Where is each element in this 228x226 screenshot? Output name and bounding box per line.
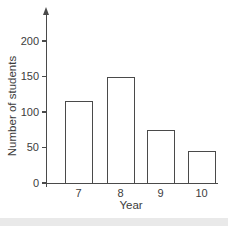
bar-chart: Number of students 050100150200 78910 Ye… xyxy=(0,0,228,226)
bar-year-10 xyxy=(188,151,216,183)
x-tick-label: 8 xyxy=(107,188,135,199)
bar-year-8 xyxy=(107,77,135,184)
y-axis-line xyxy=(46,14,47,183)
x-tick-label: 10 xyxy=(188,188,216,199)
y-tick xyxy=(42,76,46,77)
y-tick-label: 150 xyxy=(13,71,39,82)
x-tick-label: 9 xyxy=(147,188,175,199)
y-axis-arrow-icon xyxy=(43,7,49,15)
bar-year-9 xyxy=(147,130,175,183)
bar-year-7 xyxy=(65,101,93,183)
y-tick xyxy=(42,147,46,148)
y-tick-label: 100 xyxy=(13,107,39,118)
y-tick xyxy=(42,40,46,41)
x-axis-line xyxy=(46,183,218,184)
y-tick-label: 50 xyxy=(13,142,39,153)
bottom-strip xyxy=(0,218,228,226)
y-tick-label: 0 xyxy=(13,178,39,189)
y-tick xyxy=(42,182,46,183)
x-axis-title: Year xyxy=(46,199,216,211)
y-tick-label: 200 xyxy=(13,36,39,47)
x-tick-label: 7 xyxy=(65,188,93,199)
origin-tick xyxy=(46,183,47,187)
y-tick xyxy=(42,111,46,112)
